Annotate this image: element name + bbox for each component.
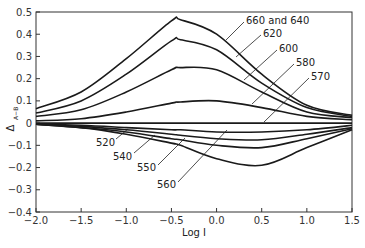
series-label: 620 <box>263 28 282 39</box>
series-label: 520 <box>96 137 115 148</box>
series-label: 580 <box>296 57 315 68</box>
series-label: 570 <box>311 71 330 82</box>
x-axis: −2.0−1.5−1.0−0.50.00.51.01.5 <box>24 208 360 226</box>
x-tick-label: 1.0 <box>299 215 315 226</box>
x-tick-label: −0.5 <box>159 215 183 226</box>
y-tick-label: 0.4 <box>16 29 32 40</box>
x-tick-label: −1.0 <box>114 215 138 226</box>
x-axis-title: Log I <box>182 227 206 238</box>
y-tick-label: −0.1 <box>8 140 32 151</box>
y-tick-label: −0.3 <box>8 184 32 195</box>
series-line-600 <box>36 67 352 117</box>
series-label: 560 <box>157 179 176 190</box>
x-tick-label: −2.0 <box>24 215 48 226</box>
leader-line <box>244 50 277 80</box>
x-tick-label: −1.5 <box>69 215 93 226</box>
y-tick-label: 0.2 <box>16 73 32 84</box>
y-tick-label: 0.3 <box>16 51 32 62</box>
x-tick-label: 1.5 <box>344 215 360 226</box>
x-tick-label: 0.0 <box>209 215 225 226</box>
chart: 0.50.40.30.20.10−0.1−0.2−0.3−0.4 −2.0−1.… <box>0 0 365 248</box>
series-label: 550 <box>137 162 156 173</box>
y-tick-label: −0.2 <box>8 162 32 173</box>
y-axis-title-main: Δ <box>5 124 16 131</box>
y-tick-label: 0.5 <box>16 7 32 18</box>
y-tick-label: 0 <box>26 118 32 129</box>
x-tick-label: 0.5 <box>254 215 270 226</box>
y-tick-label: 0.1 <box>16 95 32 106</box>
y-axis-title: Δ A−B <box>5 107 19 132</box>
leader-line <box>158 138 185 165</box>
leader-line <box>236 35 261 57</box>
leader-line <box>226 22 244 40</box>
series-line-540 <box>36 124 352 140</box>
y-axis-title-sub: A−B <box>12 107 19 120</box>
series-label: 660 and 640 <box>246 15 309 26</box>
series-label: 540 <box>113 151 132 162</box>
series-lines <box>36 17 352 166</box>
series-label: 600 <box>279 43 298 54</box>
